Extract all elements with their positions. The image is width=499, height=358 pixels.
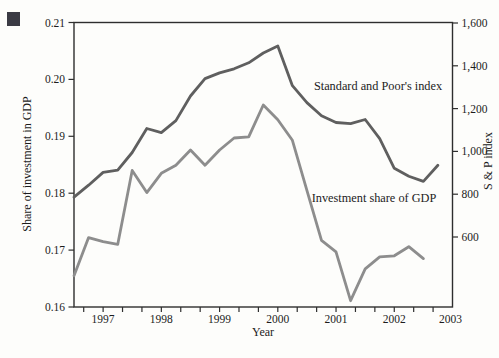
x-axis-year-label: 2002 <box>383 313 406 325</box>
x-axis-year-label: 2003 <box>439 313 462 325</box>
left-axis-tick-label: 0.20 <box>45 73 65 85</box>
x-axis-year-label: 1997 <box>92 313 115 325</box>
left-axis-tick-label: 0.16 <box>45 301 65 313</box>
left-axis-tick-label: 0.19 <box>45 130 65 142</box>
x-axis-year-label: 1999 <box>208 313 231 325</box>
investment-line-label: Investment share of GDP <box>312 191 437 205</box>
left-axis-title: Share of investment in GDP <box>20 96 34 232</box>
sp-line-label: Standard and Poor's index <box>314 79 442 93</box>
x-axis-year-label: 2001 <box>325 313 348 325</box>
figure-page: 0.160.170.180.190.200.216008001,0001,200… <box>0 0 499 358</box>
right-axis-tick-label: 1,400 <box>462 60 488 73</box>
right-axis-tick-label: 1,600 <box>462 17 488 30</box>
left-axis-tick-label: 0.17 <box>45 244 65 256</box>
x-axis-title: Year <box>252 325 274 339</box>
right-axis-title: S & P index <box>481 132 495 190</box>
right-axis-tick-label: 1,200 <box>462 103 488 116</box>
x-axis-year-label: 1998 <box>150 313 173 325</box>
left-axis-tick-label: 0.21 <box>45 17 65 29</box>
plot-frame <box>74 23 453 308</box>
investment-sp-line-chart: 0.160.170.180.190.200.216008001,0001,200… <box>0 0 499 358</box>
left-axis-tick-label: 0.18 <box>45 187 65 199</box>
right-axis-tick-label: 800 <box>462 188 480 200</box>
right-axis-tick-label: 600 <box>462 231 480 243</box>
x-axis-year-label: 2000 <box>266 313 289 325</box>
